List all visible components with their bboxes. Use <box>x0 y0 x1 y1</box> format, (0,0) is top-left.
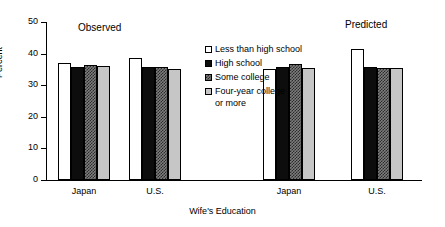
x-axis-line <box>46 180 422 181</box>
legend-label-some-college: Some college <box>215 72 270 84</box>
legend-label-high-school: High school <box>215 58 262 70</box>
legend-item-four-year-college: Four-year college or more <box>205 86 302 109</box>
group-label-predicted-us: U.S. <box>337 186 417 196</box>
bar-observed-japan-less-than-high-school <box>58 63 71 180</box>
legend-swatch-black <box>205 60 212 67</box>
bar-predicted-us-some-college <box>377 68 390 180</box>
legend-label-four-year-college-line2: or more <box>215 98 285 110</box>
bar-observed-us-less-than-high-school <box>129 58 142 180</box>
y-tick-label-30: 30 <box>12 80 38 89</box>
bar-chart: Observed Predicted 50 40 30 20 10 0 Perc… <box>0 0 445 227</box>
bar-predicted-japan-four-year-college <box>302 68 315 180</box>
y-tick-label-50: 50 <box>12 17 38 26</box>
bar-observed-us-some-college <box>155 67 168 180</box>
y-tick-0 <box>41 180 46 181</box>
y-tick-label-40: 40 <box>12 49 38 58</box>
group-label-observed-japan: Japan <box>44 186 124 196</box>
legend-swatch-hatched <box>205 74 212 81</box>
legend-item-less-than-high-school: Less than high school <box>205 44 302 56</box>
bar-predicted-us-high-school <box>364 67 377 180</box>
x-axis-title: Wife's Education <box>0 206 445 216</box>
legend-label-four-year-college-line1: Four-year college <box>215 86 285 96</box>
legend-item-high-school: High school <box>205 58 302 70</box>
bar-predicted-us-less-than-high-school <box>351 49 364 180</box>
bar-observed-us-high-school <box>142 67 155 180</box>
y-tick-label-20: 20 <box>12 112 38 121</box>
bar-observed-japan-four-year-college <box>97 66 110 180</box>
y-tick-label-10: 10 <box>12 143 38 152</box>
legend-label-less-than-high-school: Less than high school <box>215 44 302 56</box>
bar-predicted-us-four-year-college <box>390 68 403 180</box>
legend-swatch-white <box>205 46 212 53</box>
y-tick-label-0: 0 <box>12 175 38 184</box>
bar-observed-japan-high-school <box>71 67 84 180</box>
legend: Less than high school High school Some c… <box>205 44 302 112</box>
legend-swatch-light-gray <box>205 88 212 95</box>
legend-item-some-college: Some college <box>205 72 302 84</box>
group-label-predicted-japan: Japan <box>249 186 329 196</box>
y-axis-title: Percent <box>0 47 4 78</box>
bar-observed-japan-some-college <box>84 65 97 180</box>
bar-observed-us-four-year-college <box>168 69 181 180</box>
group-label-observed-us: U.S. <box>115 186 195 196</box>
